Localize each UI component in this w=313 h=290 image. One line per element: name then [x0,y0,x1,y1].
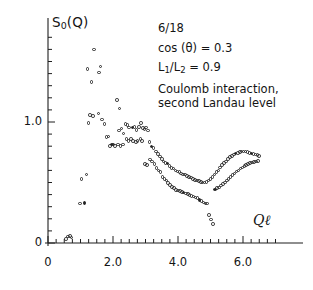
annotation-line-costheta: cos (θ) = 0.3 [158,40,308,57]
data-point [86,67,90,71]
data-point [121,143,125,147]
data-point [257,154,261,158]
data-point [211,222,215,226]
data-point [100,118,104,122]
data-point [115,98,119,102]
annotation-lmid: /L [170,60,180,74]
x-axis-ticks [48,236,276,243]
annotation-lratio-value: = 0.9 [186,60,221,74]
y-axis-tick-label: 0 [8,235,42,249]
y-axis-label-main: S [52,14,61,30]
x-axis-label: Qℓ [253,212,271,229]
annotation-line-lratio: L1/L2 = 0.9 [158,59,308,79]
data-point [91,114,95,118]
annotation-line-landau: second Landau level [158,96,308,110]
data-point [97,71,101,75]
data-point [256,159,260,163]
y-axis-ticks [48,37,55,243]
annotation-line-interaction: Coulomb interaction, [158,82,308,96]
data-point [139,121,143,125]
y-axis-label: S0(Q) [52,14,89,31]
data-point [148,140,152,144]
x-axis-tick-label: 4.0 [168,255,188,269]
x-axis-tick-label: 2.0 [103,255,123,269]
data-point [83,201,86,204]
y-axis-tick-label: 1.0 [8,114,42,128]
data-point [140,139,144,143]
y-axis-label-tail: (Q) [67,14,89,30]
data-point [80,177,84,181]
data-point [209,218,213,222]
data-point [92,48,96,52]
x-axis-tick-label: 6.0 [233,255,253,269]
scatter-plot-figure: S0(Q) Qℓ 02.04.06.001.0 6/18 cos (θ) = 0… [0,0,313,290]
data-point [145,163,149,167]
data-point [207,213,211,217]
data-point [103,122,107,126]
data-point [146,129,150,133]
annotation-block: 6/18 cos (θ) = 0.3 L1/L2 = 0.9 Coulomb i… [158,20,308,110]
data-point [153,162,157,166]
annotation-line-ratio: 6/18 [158,20,308,37]
x-axis-tick-label: 0 [38,255,58,269]
